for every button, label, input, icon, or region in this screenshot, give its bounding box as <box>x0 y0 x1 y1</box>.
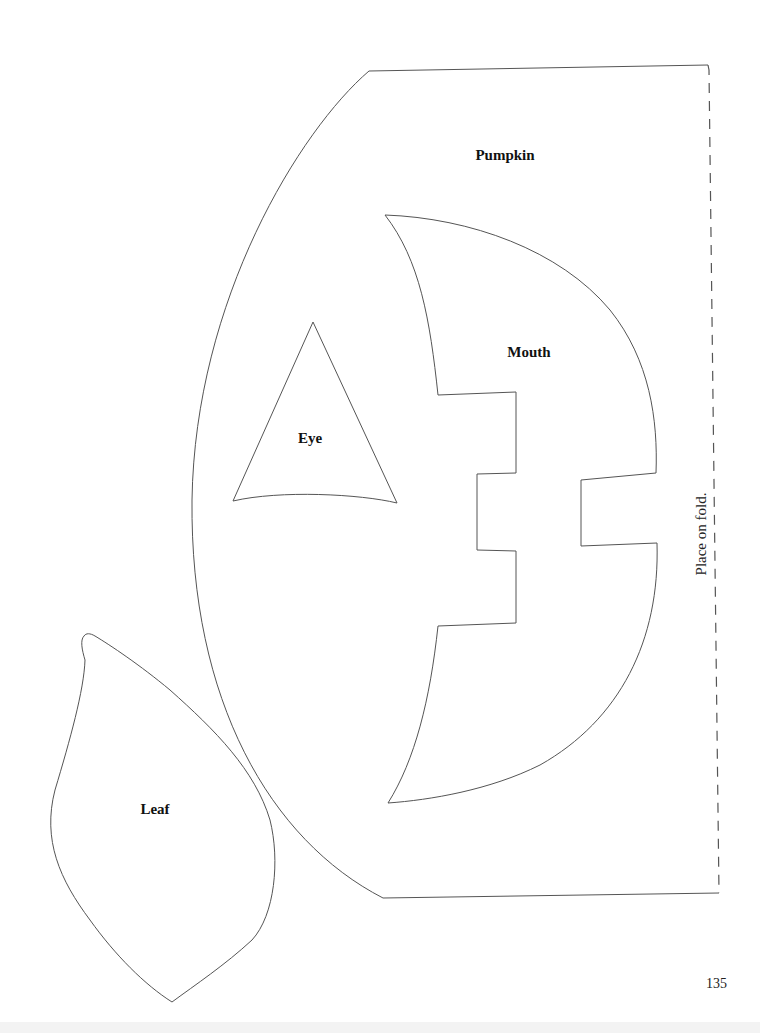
page-number: 135 <box>706 976 727 992</box>
leaf-outline <box>51 634 275 1002</box>
pumpkin-label: Pumpkin <box>475 147 534 164</box>
mouth-label: Mouth <box>507 344 550 361</box>
leaf-label: Leaf <box>140 801 169 818</box>
pattern-page: Pumpkin Mouth Eye Leaf Place on fold. 13… <box>0 0 760 1033</box>
eye-outline <box>233 322 397 503</box>
pumpkin-outline <box>192 65 719 898</box>
fold-instruction: Place on fold. <box>693 493 710 576</box>
mouth-outline <box>385 215 657 803</box>
page-bottom-edge <box>0 1022 760 1033</box>
fold-line <box>708 65 719 893</box>
eye-label: Eye <box>298 430 322 447</box>
pattern-drawing <box>0 0 760 1033</box>
